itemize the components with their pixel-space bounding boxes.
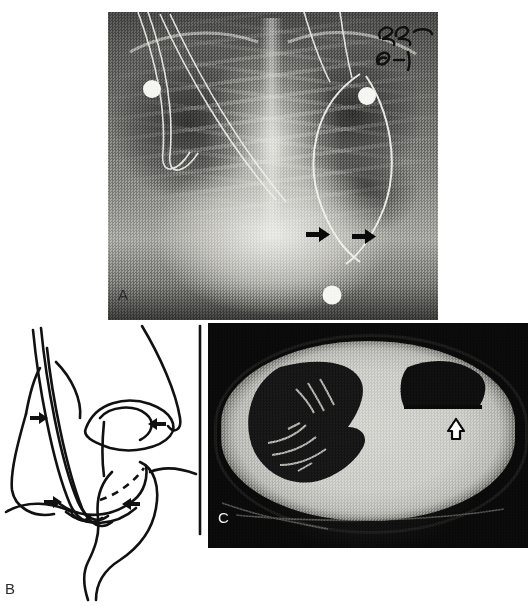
arrow-lower-right bbox=[122, 498, 140, 510]
film-grain bbox=[108, 12, 438, 320]
panel-b-label: B bbox=[5, 580, 15, 597]
panel-c-label: C bbox=[218, 509, 229, 526]
central-oval-left-wall bbox=[103, 422, 105, 476]
panel-a-chest-radiograph: A bbox=[108, 12, 438, 320]
ct-image-noise bbox=[208, 323, 528, 548]
tube-inner-left bbox=[41, 328, 108, 520]
figure-container: A bbox=[0, 0, 531, 606]
upper-right-border bbox=[56, 362, 80, 418]
stomach-lesser-curve bbox=[84, 472, 112, 600]
diaphragm-right bbox=[150, 468, 196, 474]
panel-b-line-diagram bbox=[0, 322, 205, 606]
panel-c-axial-ct: C bbox=[208, 323, 528, 548]
diagram-drawing bbox=[0, 322, 205, 606]
central-oval-inner bbox=[100, 408, 152, 440]
panel-a-label: A bbox=[118, 286, 129, 303]
radiograph-image: A bbox=[108, 12, 438, 320]
